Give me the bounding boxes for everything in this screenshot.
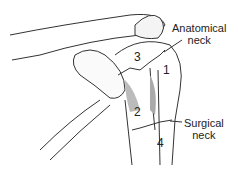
anatomical-label-line2: neck (172, 34, 226, 46)
part-1-label: 1 (163, 63, 170, 77)
anatomical-neck-label: Anatomical neck (172, 22, 226, 46)
surgical-label-line1: Surgical (184, 117, 224, 129)
part-2-label: 2 (134, 105, 141, 119)
scapula-edge (40, 100, 100, 150)
part-3-label: 3 (134, 50, 141, 64)
anatomical-label-line1: Anatomical (172, 22, 226, 34)
surgical-neck-label: Surgical neck (184, 117, 224, 141)
part-4-label: 4 (157, 136, 164, 150)
surgical-label-line2: neck (184, 129, 224, 141)
